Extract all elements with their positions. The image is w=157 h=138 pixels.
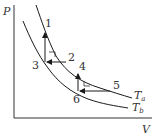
point-label-2: 2 [68, 51, 75, 64]
point-label-5: 5 [113, 79, 120, 92]
point-label-1: 1 [45, 17, 52, 30]
point-label-6: 6 [73, 93, 80, 106]
pv-diagram: P V 1 2 3 4 5 6 Ta Tb [0, 0, 157, 138]
point-label-3: 3 [32, 59, 39, 72]
p-axis-label: P [2, 5, 11, 18]
v-axis-label: V [142, 123, 151, 136]
isotherm-tb-label: Tb [132, 101, 144, 115]
point-label-4: 4 [79, 60, 86, 73]
